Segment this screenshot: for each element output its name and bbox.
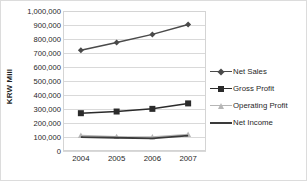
legend-marker-square-icon [210,83,232,95]
data-point-marker [149,31,155,37]
legend-symbol [217,68,224,75]
legend-symbol [218,103,224,109]
x-axis-tick-label: 2004 [72,154,89,163]
series-line [81,103,188,113]
x-axis-tick-label: 2007 [179,154,196,163]
x-axis-tick-label: 2006 [144,154,161,163]
legend-marker-triangle-icon [210,100,232,112]
legend-marker-diamond-icon [210,66,232,78]
legend-entry-gross-profit[interactable]: Gross Profit [210,80,306,97]
y-axis-tick-label: 800,000 [15,35,61,44]
data-point-marker [114,109,120,115]
legend-entry-operating-profit[interactable]: Operating Profit [210,97,306,114]
chart-legend: Net SalesGross ProfitOperating ProfitNet… [210,63,306,131]
x-axis-tick-label: 2005 [108,154,125,163]
y-axis-tick-label: 100,000 [15,133,61,142]
data-point-marker [149,106,155,112]
y-axis-tick-label: 500,000 [15,77,61,86]
series-gross-profit [78,100,191,116]
y-axis-tick-label: 900,000 [15,21,61,30]
x-axis-tick-labels: 2004200520062007 [63,154,206,168]
legend-label: Operating Profit [232,101,288,110]
y-axis-title-label: KRW Mill [6,68,15,103]
y-axis-tick-label: 200,000 [15,119,61,128]
data-point-marker [114,40,120,46]
y-axis-tick-label: 0 [15,147,61,156]
data-point-marker [78,47,84,53]
legend-label: Net Income [232,118,273,127]
y-axis-tick-label: 300,000 [15,105,61,114]
legend-label: Net Sales [232,67,267,76]
legend-label: Gross Profit [232,84,274,93]
series-line [81,25,188,51]
plot-area [63,11,206,151]
y-axis-tick-labels: 1,000,000900,000800,000700,000600,000500… [15,11,61,151]
legend-marker-line-icon [210,117,232,129]
y-axis-tick-label: 700,000 [15,49,61,58]
y-axis-tick-label: 400,000 [15,91,61,100]
gridline [63,151,206,152]
y-axis-tick-label: 600,000 [15,63,61,72]
legend-entry-net-sales[interactable]: Net Sales [210,63,306,80]
legend-entry-net-income[interactable]: Net Income [210,114,306,131]
legend-line [210,122,232,124]
chart-container: KRW Mill 1,000,000900,000800,000700,0006… [0,0,307,181]
y-axis-tick-label: 1,000,000 [15,7,61,16]
series-net-sales [78,22,191,54]
legend-symbol [218,86,224,92]
data-series-layer [63,11,206,151]
data-point-marker [185,100,191,106]
data-point-marker [78,110,84,116]
data-point-marker [185,22,191,28]
